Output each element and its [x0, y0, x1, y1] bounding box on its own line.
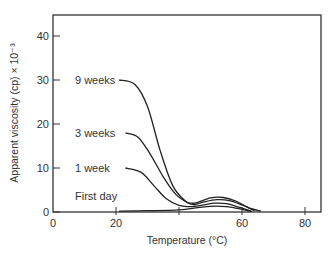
series-label: First day — [75, 190, 118, 202]
x-tick-label: 0 — [50, 217, 56, 229]
series-label: 3 weeks — [75, 127, 116, 139]
series-curve — [125, 133, 254, 211]
x-tick-label: 20 — [110, 217, 122, 229]
x-tick-label: 80 — [299, 217, 311, 229]
series-label: 9 weeks — [75, 74, 116, 86]
plot-frame — [53, 15, 321, 212]
y-axis-title: Apparent viscosity (cp) × 10⁻³ — [8, 43, 20, 183]
y-axis-ticks: 010203040 — [37, 30, 60, 218]
series-curves — [119, 80, 261, 212]
x-tick-label: 60 — [236, 217, 248, 229]
x-axis-title: Temperature (°C) — [147, 234, 228, 246]
series-curve — [119, 80, 261, 211]
series-labels: 9 weeks3 weeks1 weekFirst day — [75, 74, 118, 202]
y-tick-label: 0 — [43, 206, 49, 218]
y-tick-label: 30 — [37, 74, 49, 86]
series-curve — [125, 168, 251, 211]
y-tick-label: 10 — [37, 162, 49, 174]
viscosity-chart: 010203040 0206080 9 weeks3 weeks1 weekFi… — [0, 0, 332, 253]
series-label: 1 week — [75, 162, 110, 174]
y-tick-label: 20 — [37, 118, 49, 130]
y-tick-label: 40 — [37, 30, 49, 42]
